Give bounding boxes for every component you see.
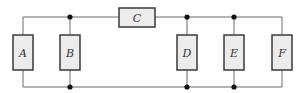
component-e: E bbox=[224, 35, 244, 70]
junction-node-icon bbox=[231, 14, 236, 19]
component-d: D bbox=[177, 35, 197, 70]
component-a-label: A bbox=[18, 47, 27, 60]
component-f-label: F bbox=[277, 47, 286, 60]
junction-node-icon bbox=[67, 14, 72, 19]
component-f: F bbox=[272, 35, 292, 70]
component-c: C bbox=[119, 8, 155, 27]
component-b-label: B bbox=[65, 47, 74, 60]
component-a: A bbox=[13, 35, 33, 70]
junction-node-icon bbox=[231, 84, 236, 89]
component-e-label: E bbox=[229, 47, 238, 60]
component-d-label: D bbox=[182, 47, 192, 60]
junction-node-icon bbox=[184, 14, 189, 19]
circuit-diagram: A B C D E F bbox=[0, 0, 304, 93]
junction-node-icon bbox=[184, 84, 189, 89]
junction-node-icon bbox=[67, 84, 72, 89]
component-b: B bbox=[60, 35, 80, 70]
component-c-label: C bbox=[133, 12, 142, 25]
